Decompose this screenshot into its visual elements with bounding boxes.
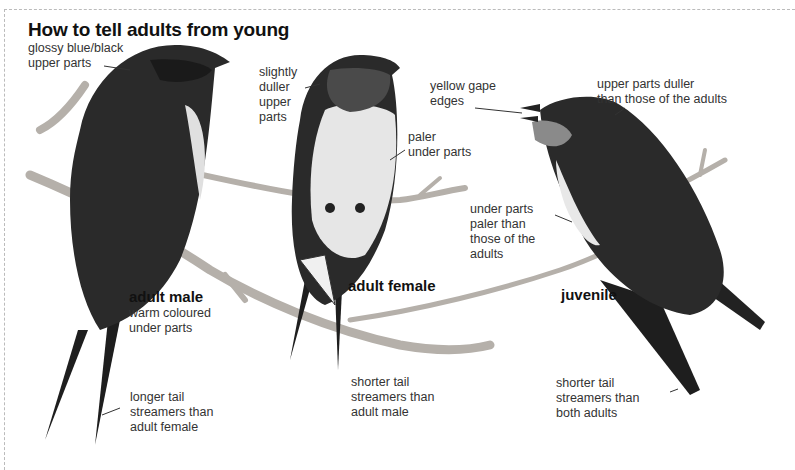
label-juvenile-upper-parts: upper parts duller than those of the adu… — [597, 77, 727, 107]
label-female-tail: shorter tail streamers than adult male — [351, 375, 434, 420]
page-title: How to tell adults from young — [28, 19, 289, 41]
label-juvenile-gape: yellow gape edges — [430, 79, 496, 109]
label-male-upper-parts: glossy blue/black upper parts — [28, 41, 123, 71]
name-juvenile: juvenile — [561, 286, 617, 303]
name-adult-female: adult female — [348, 277, 436, 294]
name-adult-male: adult male — [129, 288, 203, 305]
label-juvenile-under-parts: under parts paler than those of the adul… — [470, 202, 535, 262]
juvenile-bird — [520, 97, 765, 395]
label-female-upper-parts: slightly duller upper parts — [259, 65, 297, 125]
adult-female-bird — [290, 55, 400, 370]
label-juvenile-tail: shorter tail streamers than both adults — [556, 376, 639, 421]
label-female-under-parts: paler under parts — [408, 130, 471, 160]
label-male-under-parts: warm coloured under parts — [129, 306, 211, 336]
label-male-tail: longer tail streamers than adult female — [130, 390, 213, 435]
